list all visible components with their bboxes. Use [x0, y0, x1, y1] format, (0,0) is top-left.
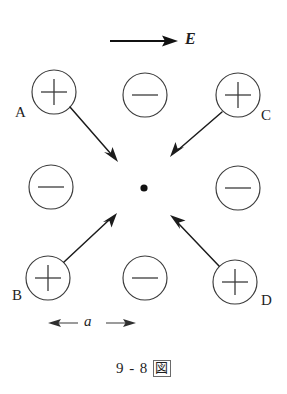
force-arrow-from-A [70, 107, 118, 162]
figure-caption: 9 - 8 図 [0, 360, 287, 377]
force-arrow-from-C [170, 112, 222, 157]
physics-figure: A C B D E a 9 - 8 図 [0, 0, 287, 394]
distance-label: a [84, 314, 92, 329]
charge-bottom-middle [123, 256, 167, 300]
distance-dimension [48, 319, 136, 327]
force-arrow-from-C-head [170, 142, 184, 157]
figure-caption-number: 9 - 8 [116, 360, 149, 376]
force-arrow-from-B-head [103, 213, 117, 228]
force-arrow-from-D-shaft [178, 223, 219, 266]
force-arrow-from-D-head [170, 215, 186, 229]
charge-D-label: D [261, 293, 272, 308]
charge-middle-right [216, 166, 260, 210]
charge-top-middle [123, 73, 167, 117]
force-arrow-from-A-shaft [70, 107, 111, 154]
figure-caption-kanji: 図 [153, 360, 171, 377]
charge-middle-left [29, 165, 73, 209]
force-arrow-from-B-shaft [64, 220, 109, 262]
uniform-field-arrow [110, 36, 178, 47]
charge-B-label: B [12, 288, 22, 303]
center-point-dot [140, 184, 147, 191]
charge-A-label: A [15, 105, 26, 120]
force-arrow-from-B [64, 213, 117, 262]
charge-C [216, 73, 260, 117]
force-arrow-from-D [170, 215, 219, 266]
charge-C-label: C [261, 108, 271, 123]
charge-D [213, 260, 257, 304]
charge-B [26, 256, 70, 300]
force-arrow-from-C-shaft [178, 112, 222, 150]
uniform-field-label: E [185, 31, 196, 47]
diagram-canvas [0, 0, 287, 394]
